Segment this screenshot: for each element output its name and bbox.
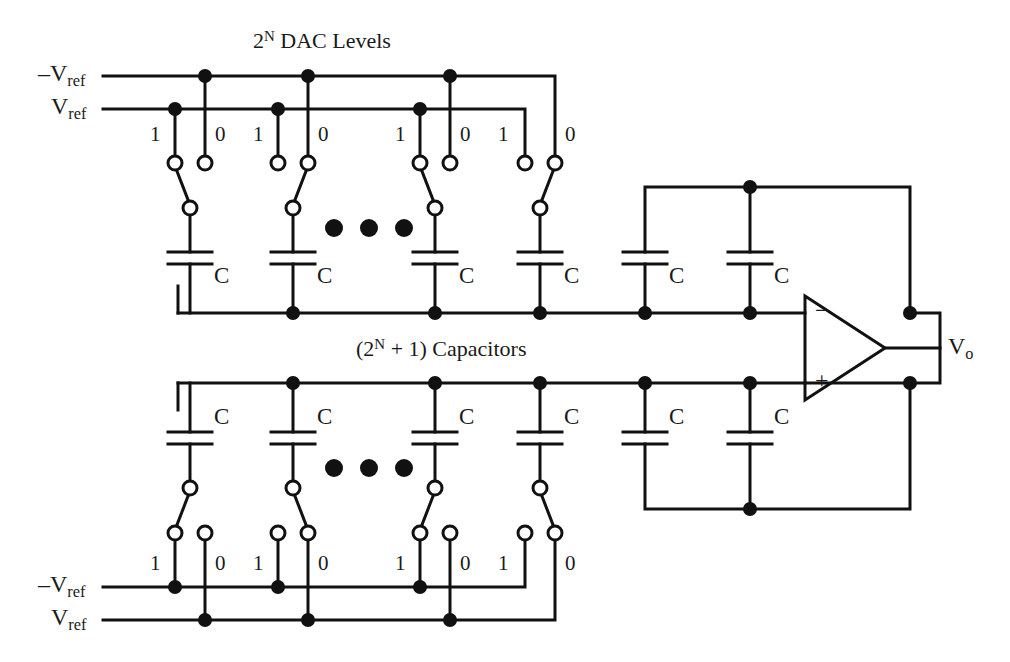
output-voltage-label: Vo [948, 333, 974, 364]
capacitor-count-caption: (2N + 1) Capacitors [356, 336, 526, 362]
schematic-canvas: 2N DAC Levels (2N + 1) Capacitors –Vref … [0, 0, 1010, 662]
top-bit-0-col1: 0 [215, 122, 226, 147]
output-text: V [948, 333, 965, 359]
bottom-bit-1-col1: 1 [150, 551, 161, 576]
top-pos-vref-label: Vref [51, 93, 86, 124]
page-title: 2N DAC Levels [253, 28, 391, 54]
top-cap-label-2: C [317, 263, 332, 289]
caption-prefix: (2 [356, 336, 374, 361]
pos-vref-text: V [51, 604, 68, 630]
top-cap-label-4: C [564, 263, 579, 289]
neg-vref-text: –V [38, 571, 67, 597]
bottom-bit-1-col4: 1 [498, 551, 509, 576]
bottom-switch-arms [175, 491, 555, 530]
pos-vref-text: V [51, 93, 68, 119]
opamp-noninverting-sign: + [815, 368, 829, 392]
title-text: DAC Levels [280, 28, 391, 53]
bottom-bit-0-col2: 0 [318, 551, 329, 576]
neg-vref-text: –V [38, 60, 67, 86]
top-bit-1-col2: 1 [253, 122, 264, 147]
top-bit-1-col4: 1 [498, 122, 509, 147]
bottom-cap-label-4: C [564, 404, 579, 430]
bottom-switch-drops [175, 536, 450, 620]
bottom-summing-rail [178, 383, 805, 410]
top-cap-label-1: C [214, 263, 229, 289]
bottom-bit-1-col3: 1 [395, 551, 406, 576]
top-switch-drops [175, 76, 450, 160]
top-switch-arms [175, 166, 555, 205]
bottom-feedback-cap-label-2: C [774, 404, 789, 430]
pos-vref-subscript: ref [68, 104, 86, 123]
pos-vref-subscript: ref [68, 615, 86, 634]
bottom-bit-0-col3: 0 [460, 551, 471, 576]
top-bit-0-col4: 0 [565, 122, 576, 147]
neg-vref-subscript: ref [67, 582, 85, 601]
bottom-capacitor-plates [168, 432, 772, 444]
output-subscript: o [965, 344, 973, 363]
top-neg-vref-label: –Vref [38, 60, 85, 91]
title-base: 2 [253, 28, 264, 53]
bottom-neg-vref-label: –Vref [38, 571, 85, 602]
bottom-cap-label-1: C [214, 404, 229, 430]
top-rail-neg-vref [103, 76, 555, 160]
bottom-cap-label-2: C [317, 404, 332, 430]
bottom-bit-1-col2: 1 [253, 551, 264, 576]
bottom-cap-label-3: C [459, 404, 474, 430]
bottom-pos-vref-label: Vref [51, 604, 86, 635]
top-bit-1-col1: 1 [150, 122, 161, 147]
bottom-feedback-rail [645, 383, 910, 509]
bottom-bit-0-col1: 0 [215, 551, 226, 576]
top-cap-label-3: C [459, 263, 474, 289]
bottom-rail-pos-vref [103, 536, 555, 620]
title-exponent: N [264, 28, 275, 44]
opamp-inverting-sign: − [815, 298, 830, 324]
bottom-bit-0-col4: 0 [565, 551, 576, 576]
top-ellipsis-icon [325, 219, 413, 237]
top-summing-rail [178, 286, 805, 313]
top-feedback-cap-label-1: C [669, 263, 684, 289]
caption-suffix: + 1) Capacitors [385, 336, 526, 361]
top-bit-0-col3: 0 [460, 122, 471, 147]
bottom-ellipsis-icon [325, 459, 413, 477]
bottom-feedback-cap-label-1: C [669, 404, 684, 430]
caption-exponent: N [374, 336, 385, 352]
top-bit-0-col2: 0 [318, 122, 329, 147]
top-feedback-rail [645, 187, 910, 313]
neg-vref-subscript: ref [67, 71, 85, 90]
top-feedback-cap-label-2: C [774, 263, 789, 289]
top-bit-1-col3: 1 [395, 122, 406, 147]
